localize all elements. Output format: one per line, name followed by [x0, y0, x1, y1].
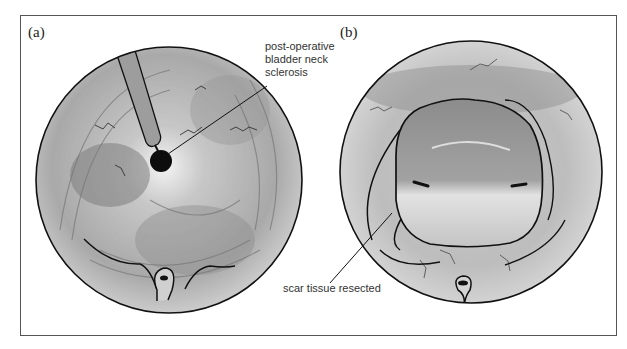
panel-a: (a)	[28, 24, 338, 313]
orifice-opening	[160, 276, 168, 281]
annotation-a: post-operative bladder neck sclerosis	[265, 40, 338, 78]
panel-b-label: (b)	[340, 24, 358, 41]
orifice-opening	[458, 281, 468, 286]
ureteric-orifice-right	[512, 184, 526, 186]
mucosa-shadow	[190, 75, 270, 145]
panel-b: (b)	[283, 24, 602, 307]
endoscopic-figure: (a)	[0, 0, 627, 349]
panel-a-label: (a)	[28, 24, 45, 41]
resected-bladder-neck	[396, 99, 543, 247]
mucosa-shadow	[70, 143, 150, 207]
annotation-b: scar tissue resected	[283, 282, 381, 294]
